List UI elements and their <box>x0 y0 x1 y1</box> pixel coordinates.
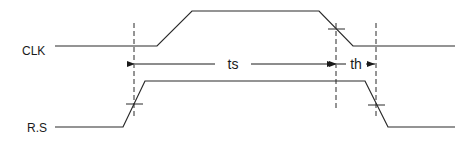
rs-waveform <box>55 81 455 127</box>
timing-diagram: CLK R.S ts th <box>0 0 476 142</box>
setup-time-label: ts <box>228 56 239 72</box>
clk-waveform <box>55 11 455 46</box>
rs-label: R.S <box>27 121 47 135</box>
reference-lines <box>134 23 376 118</box>
clk-label: CLK <box>22 44 45 58</box>
hold-time-label: th <box>350 56 362 72</box>
crossing-marks <box>126 29 385 105</box>
